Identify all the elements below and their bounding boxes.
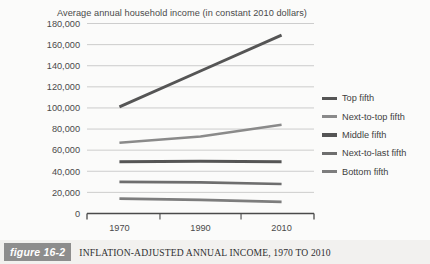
chart-area: Average annual household income (in cons… (0, 0, 430, 238)
legend-swatch-icon (322, 152, 337, 155)
legend-item-label: Next-to-top fifth (342, 112, 405, 122)
y-axis-tick-label: 0 (75, 209, 80, 219)
y-axis-tick-label: 20,000 (52, 188, 80, 198)
series-line-next-to-last-fifth (119, 182, 281, 184)
y-axis-tick-label: 180,000 (47, 19, 80, 29)
legend-item: Top fifth (322, 89, 428, 107)
legend-swatch-icon (322, 133, 337, 136)
legend-swatch-icon (322, 115, 337, 118)
legend-swatch-icon (322, 97, 337, 100)
figure-container: Average annual household income (in cons… (0, 0, 430, 264)
y-axis-tick-label: 120,000 (47, 82, 80, 92)
x-axis-tick-label: 1990 (190, 223, 210, 233)
gridlines-group (87, 24, 314, 193)
y-axis-tick-label: 140,000 (47, 61, 80, 71)
y-axis-tick-label: 100,000 (47, 103, 80, 113)
legend-item: Next-to-top fifth (322, 107, 428, 125)
series-line-top-fifth (119, 35, 281, 107)
legend-item: Bottom fifth (322, 163, 428, 181)
y-axis-tick-label: 40,000 (52, 167, 80, 177)
data-series-group (119, 35, 281, 202)
x-axis-tick-label: 2010 (271, 223, 291, 233)
x-axis-tick-labels: 197019902010 (109, 223, 292, 233)
series-line-middle-fifth (119, 161, 281, 162)
series-line-bottom-fifth (119, 199, 281, 202)
y-axis-tick-label: 160,000 (47, 40, 80, 50)
figure-number-badge: figure 16-2 (4, 243, 71, 261)
axis-group (87, 214, 314, 220)
y-axis-tick-labels: 180,000160,000140,000120,000100,00080,00… (47, 19, 80, 219)
figure-caption-text: INFLATION-ADJUSTED ANNUAL INCOME, 1970 T… (79, 247, 330, 258)
series-line-next-to-top-fifth (119, 125, 281, 143)
legend-item: Next-to-last fifth (322, 144, 428, 162)
x-axis-tick-label: 1970 (109, 223, 129, 233)
legend-item-label: Next-to-last fifth (342, 148, 406, 158)
legend-item-label: Top fifth (342, 93, 374, 103)
legend-swatch-icon (322, 170, 337, 173)
figure-caption-bar: figure 16-2 INFLATION-ADJUSTED ANNUAL IN… (0, 240, 430, 264)
legend-item-label: Middle fifth (342, 130, 386, 140)
chart-legend: Top fifthNext-to-top fifthMiddle fifthNe… (322, 89, 428, 181)
legend-item: Middle fifth (322, 126, 428, 144)
y-axis-tick-label: 80,000 (52, 124, 80, 134)
y-axis-tick-label: 60,000 (52, 145, 80, 155)
legend-item-label: Bottom fifth (342, 167, 388, 177)
